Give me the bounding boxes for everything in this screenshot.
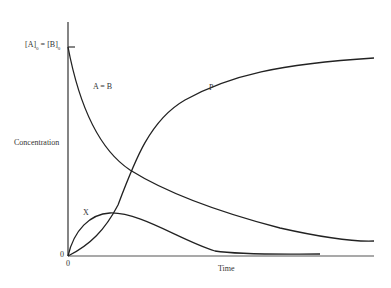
y-axis-initial-label: [A]0 = [B]0 [25,40,60,51]
x-axis-label: Time [218,264,235,273]
curve-label-p: P [209,83,213,92]
origin-y-label: 0 [60,250,64,259]
y-axis-label: Concentration [14,138,59,147]
curve-label-a-equals-b: A = B [93,82,112,91]
origin-x-label: 0 [66,259,70,268]
curve-label-x: X [83,208,89,217]
curve-x [68,213,320,256]
